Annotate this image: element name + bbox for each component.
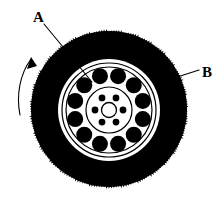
tire-diagram: A B [0, 0, 223, 204]
vent-hole [135, 93, 151, 109]
vent-hole [92, 68, 108, 84]
vent-hole [67, 111, 83, 127]
lug-bolt-hole [113, 119, 120, 126]
vent-hole [135, 111, 151, 127]
vent-hole [110, 136, 126, 152]
vent-hole [92, 136, 108, 152]
lug-bolt-hole [99, 94, 106, 101]
vent-hole [126, 127, 142, 143]
label-a: A [33, 9, 44, 25]
vent-hole [76, 127, 92, 143]
vent-hole [67, 93, 83, 109]
hub-assembly [86, 87, 132, 133]
vent-hole [110, 68, 126, 84]
lug-bolt-hole [120, 107, 127, 114]
lug-bolt-hole [99, 119, 106, 126]
label-b: B [202, 64, 212, 80]
lug-bolt-hole [92, 107, 99, 114]
lug-bolt-hole [113, 94, 120, 101]
diagram-canvas: A B [0, 0, 223, 204]
vent-hole [126, 77, 142, 93]
